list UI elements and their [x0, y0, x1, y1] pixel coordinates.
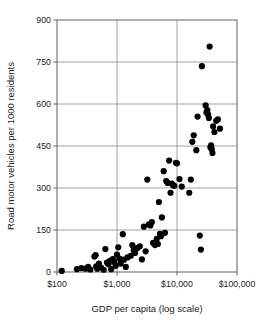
data-point	[159, 214, 165, 220]
data-point	[179, 184, 185, 190]
data-point	[139, 256, 145, 262]
data-point	[115, 244, 121, 250]
data-point	[101, 267, 107, 273]
data-point	[207, 44, 213, 50]
data-point	[102, 246, 108, 252]
data-point	[87, 266, 93, 272]
data-point	[162, 230, 168, 236]
data-point	[143, 248, 149, 254]
data-point	[191, 132, 197, 138]
x-axis-title: GDP per capita (log scale)	[91, 303, 202, 314]
data-point	[194, 114, 200, 120]
data-point	[210, 123, 216, 129]
y-tick-label: 750	[36, 57, 51, 67]
data-point	[197, 233, 203, 239]
data-point	[144, 177, 150, 183]
data-point	[93, 252, 99, 258]
x-tick-label: $100	[47, 279, 67, 289]
data-point	[209, 150, 215, 156]
chart-figure: 0150300450600750900 $100$1,000$10,000$10…	[0, 0, 267, 327]
y-tick-label: 0	[46, 267, 51, 277]
y-tick-label: 150	[36, 225, 51, 235]
data-point	[166, 157, 172, 163]
data-point	[193, 147, 199, 153]
x-tick-label: $1,000	[104, 279, 131, 289]
data-point	[155, 241, 161, 247]
data-point	[156, 199, 162, 205]
data-point	[120, 231, 126, 237]
data-point	[206, 115, 212, 121]
data-point	[123, 264, 129, 270]
data-point	[137, 243, 143, 249]
x-tick-label: $10,000	[161, 279, 193, 289]
data-point	[176, 176, 182, 182]
data-point	[171, 183, 177, 189]
y-axis-title: Road motor vehicles per 1000 residents	[5, 62, 16, 230]
data-point	[149, 219, 155, 225]
y-tick-label: 300	[36, 183, 51, 193]
scatter-plot-canvas: 0150300450600750900 $100$1,000$10,000$10…	[0, 0, 267, 327]
data-point	[188, 177, 194, 183]
data-point	[198, 247, 204, 253]
data-point	[189, 139, 195, 145]
data-point	[167, 190, 173, 196]
data-point	[174, 160, 180, 166]
data-point	[59, 268, 65, 274]
data-point	[217, 126, 223, 132]
data-point	[161, 168, 167, 174]
x-tick-label: $100,000	[219, 279, 256, 289]
y-tick-label: 900	[36, 15, 51, 25]
data-point	[215, 116, 221, 122]
data-point	[186, 190, 192, 196]
y-tick-label: 450	[36, 141, 51, 151]
data-point	[211, 129, 217, 135]
y-tick-label: 600	[36, 99, 51, 109]
data-point	[199, 63, 205, 69]
